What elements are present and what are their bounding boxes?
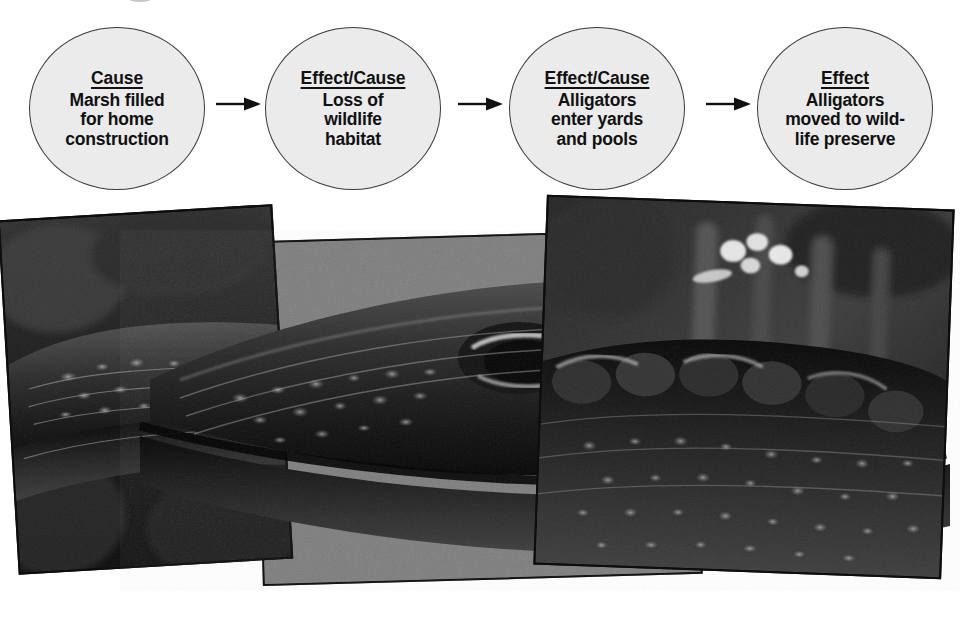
photo-panel-right-art [535, 197, 952, 578]
flow-node-title: Cause [91, 68, 143, 88]
flow-arrow-2 [458, 96, 504, 112]
photo-panel-left-art [0, 206, 291, 572]
photo-panel-left [0, 204, 293, 575]
flow-node-body: Alligators moved to wild- life preserve [779, 91, 911, 150]
photo-panel-right [533, 195, 954, 580]
flow-arrow-1 [216, 96, 262, 112]
flow-node-effect[interactable]: Effect Alligators moved to wild- life pr… [757, 27, 933, 190]
flow-node-title: Effect/Cause [545, 68, 650, 88]
flow-node-cause[interactable]: Cause Marsh filled for home construction [29, 27, 205, 190]
flow-node-effect-cause-1[interactable]: Effect/Cause Loss of wildlife habitat [265, 27, 441, 190]
flow-arrow-3 [706, 96, 752, 112]
alligator-photo-collage [0, 190, 962, 623]
flow-node-title: Effect/Cause [301, 68, 406, 88]
flow-node-body: Marsh filled for home construction [59, 91, 175, 150]
flow-node-title: Effect [821, 68, 869, 88]
flow-node-body: Alligators enter yards and pools [545, 91, 649, 150]
flow-node-effect-cause-2[interactable]: Effect/Cause Alligators enter yards and … [509, 27, 685, 190]
diagram-canvas: Cause Marsh filled for home construction… [0, 0, 962, 623]
flow-node-body: Loss of wildlife habitat [317, 91, 390, 150]
cause-effect-chain: Cause Marsh filled for home construction… [0, 0, 962, 200]
